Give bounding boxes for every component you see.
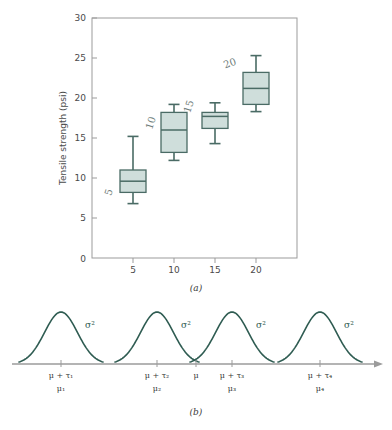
- panel-b-caption: (b): [0, 407, 392, 417]
- x-axis-ticks: [133, 258, 256, 263]
- y-tick-label-5: 5: [80, 213, 86, 223]
- y-tick-label-30: 30: [75, 13, 87, 23]
- box-iqr: [202, 112, 228, 128]
- variance-label: σ²: [256, 320, 266, 330]
- x-tick-label-15: 15: [209, 265, 220, 275]
- mean-label: μ₄: [316, 384, 324, 393]
- y-tick-label-15: 15: [75, 133, 86, 143]
- y-tick-label-0: 0: [80, 254, 86, 264]
- boxplot-panel: 30 25 20 15 10 5 0 Tensile strength (psi…: [0, 0, 392, 283]
- x-tick-label-20: 20: [250, 265, 262, 275]
- mean-label: μ₂: [153, 384, 161, 393]
- variance-label: σ²: [181, 320, 191, 330]
- grand-mean-label: μ: [193, 371, 198, 380]
- axis-arrow-icon: [374, 361, 383, 368]
- y-tick-label-10: 10: [75, 173, 87, 183]
- x-tick-label-5: 5: [130, 265, 136, 275]
- mean-label: μ₃: [228, 384, 236, 393]
- center-label: μ + τ₁: [49, 371, 74, 380]
- variance-label: σ²: [344, 320, 354, 330]
- mean-label: μ₁: [57, 384, 65, 393]
- cropped-figure-caption-ghost: [0, 420, 392, 430]
- y-tick-label-20: 20: [75, 93, 87, 103]
- plot-frame: [92, 18, 297, 258]
- figure-container: 30 25 20 15 10 5 0 Tensile strength (psi…: [0, 0, 392, 430]
- center-label: μ + τ₂: [145, 371, 170, 380]
- panel-a-caption: (a): [0, 283, 392, 293]
- x-tick-label-10: 10: [168, 265, 180, 275]
- center-label: μ + τ₃: [220, 371, 245, 380]
- center-label: μ + τ₄: [308, 371, 333, 380]
- y-axis-title: Tensile strength (psi): [58, 91, 68, 186]
- y-tick-label-25: 25: [75, 53, 86, 63]
- normal-curves-panel: σ²μ + τ₁μ₁σ²μ + τ₂μ₂σ²μ + τ₃μ₃σ²μ + τ₄μ₄…: [0, 298, 392, 408]
- variance-label: σ²: [85, 320, 95, 330]
- box-iqr: [161, 112, 187, 152]
